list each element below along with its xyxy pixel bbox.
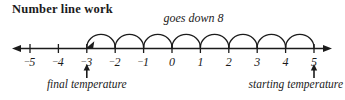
jump-arc [229,34,257,47]
tick-label: 0 [169,55,175,70]
negative-sign: – [53,55,58,65]
tick-label: –1 [138,55,149,70]
tick-label: –5 [25,55,36,70]
tick-label: 4 [283,55,289,70]
jump-arc [286,34,314,47]
tick-label: –2 [110,55,121,70]
tick-label: 2 [226,55,232,70]
tick-label: 3 [254,55,260,70]
tick-label: 5 [311,55,317,70]
tick-label: –3 [81,55,92,70]
axis-arrow-right [323,45,332,52]
negative-sign: – [110,55,115,65]
jump-arc [115,34,143,47]
tick-label: –4 [53,55,64,70]
annotation-label-left: final temperature [47,78,127,90]
jump-arc [172,34,200,47]
axis-arrow-left [12,45,21,52]
number-line-figure: Number line work goes down 8 –5–4–3–2–10… [0,0,345,100]
jump-arc [257,34,285,47]
negative-sign: – [138,55,143,65]
jump-arc [144,34,172,47]
annotation-label-right: starting temperature [249,78,343,90]
negative-sign: – [25,55,30,65]
jump-arcs-group [86,34,314,48]
negative-sign: – [81,55,86,65]
tick-label: 1 [197,55,203,70]
jump-arc [200,34,228,47]
